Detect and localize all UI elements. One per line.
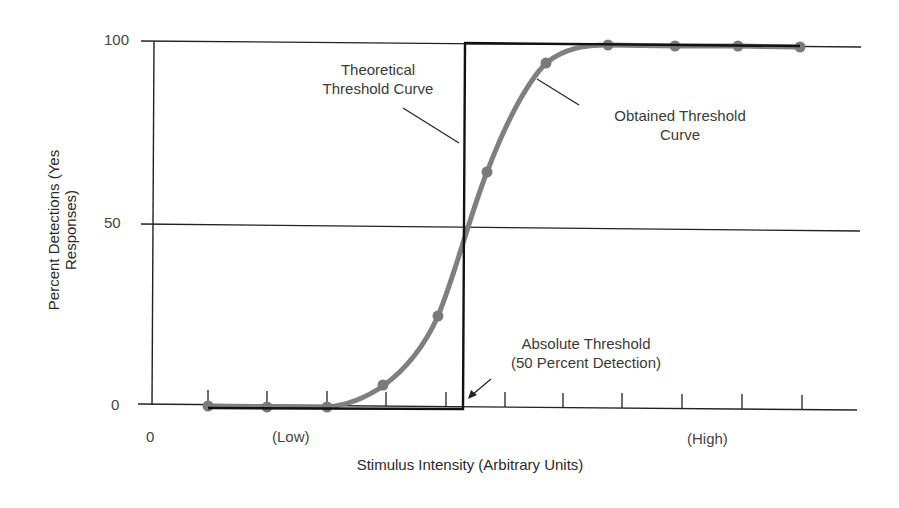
y-tick-50: 50 [104,214,121,231]
absolute-annotation-line2: (50 Percent Detection) [486,353,686,372]
obtained-leader-line [537,79,579,105]
x-high-label: (High) [687,430,728,447]
absolute-annotation-line1: Absolute Threshold [486,334,686,353]
y-tick-100: 100 [104,31,129,48]
gridline-50 [141,224,860,231]
theoretical-annotation-line1: Theoretical [280,60,476,79]
theoretical-curve-annotation: Theoretical Threshold Curve [280,60,476,98]
x-low-label: (Low) [272,428,310,445]
absolute-threshold-arrow-line [472,379,491,395]
y-axis [152,41,154,405]
y-tick-0: 0 [111,396,119,413]
absolute-threshold-annotation: Absolute Threshold (50 Percent Detection… [486,334,686,372]
x-tick-origin: 0 [146,428,154,445]
obtained-annotation-line1: Obtained Threshold [580,106,780,125]
theoretical-leader-line [403,108,459,143]
theoretical-annotation-line2: Threshold Curve [280,79,476,98]
obtained-curve-annotation: Obtained Threshold Curve [580,106,780,144]
y-axis-label: Percent Detections (Yes Responses) [45,110,79,350]
obtained-annotation-line2: Curve [580,125,780,144]
x-axis-label: Stimulus Intensity (Arbitrary Units) [300,456,640,473]
